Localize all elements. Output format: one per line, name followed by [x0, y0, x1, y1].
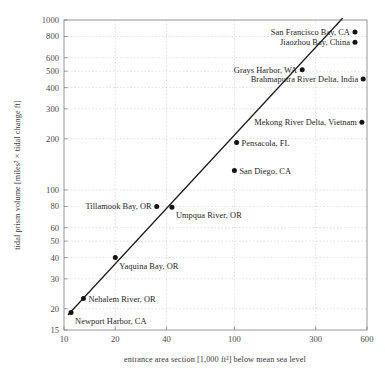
y-tick-label: 200	[46, 134, 59, 144]
y-tick-label: 100	[46, 185, 59, 195]
data-point-label: Brahmaputra River Delta, India	[251, 75, 359, 84]
y-tick-label: 600	[46, 53, 59, 63]
data-point-label: Jiaozhou Bay, China	[280, 38, 350, 47]
x-tick-label: 300	[309, 334, 322, 344]
y-tick-label: 1000	[42, 15, 59, 25]
y-tick-label: 300	[46, 104, 59, 114]
data-point	[69, 310, 74, 315]
data-point-label: Nehalem River, OR	[88, 295, 156, 304]
data-point-label: Pensacola, FL	[242, 139, 290, 148]
y-axis-title: tidal prism volume [miles² × tidal chang…	[13, 100, 22, 250]
y-tick-label: 60	[50, 223, 59, 233]
data-point	[352, 40, 357, 45]
data-point	[232, 168, 237, 173]
data-point-markers	[69, 29, 366, 315]
y-tick-label: 20	[50, 304, 59, 314]
y-tick-label: 400	[46, 83, 59, 93]
data-point-label: Newport Harbor, CA	[75, 317, 147, 326]
chart-container: 152030405060801002003004005006008001000 …	[0, 0, 385, 377]
data-point	[352, 29, 357, 34]
scatter-plot: 152030405060801002003004005006008001000 …	[0, 0, 385, 377]
y-tick-label: 40	[50, 253, 59, 263]
data-point	[359, 120, 364, 125]
plot-frame	[64, 20, 367, 330]
data-point	[81, 296, 86, 301]
y-tick-label: 500	[46, 66, 59, 76]
x-tick-label: 100	[228, 334, 241, 344]
data-point	[169, 205, 174, 210]
y-tick-label: 50	[50, 236, 59, 246]
trend-line	[68, 19, 342, 315]
data-point-label: Grays Harbor, WA	[234, 66, 297, 75]
data-point-label: San Francisco Bay, CA	[271, 28, 350, 37]
y-tick-label: 80	[50, 201, 59, 211]
data-point-label: Umpqua River, OR	[176, 211, 242, 220]
x-axis-ticks: 102040100300600	[60, 327, 374, 345]
data-point-label: Tillamook Bay, OR	[85, 202, 152, 211]
x-tick-label: 10	[60, 334, 69, 344]
y-tick-label: 800	[46, 31, 59, 41]
data-point-label: San Diego, CA	[239, 167, 291, 176]
x-tick-label: 600	[361, 334, 374, 344]
x-tick-label: 20	[111, 334, 120, 344]
data-point-label: Mekong River Delta, Vietnam	[254, 118, 357, 127]
data-point	[113, 255, 118, 260]
x-axis-title: entrance area section [1,000 ft²] below …	[124, 355, 306, 364]
data-point	[361, 76, 366, 81]
data-point-label: Yaquina Bay, OR	[119, 262, 179, 271]
y-tick-label: 15	[50, 325, 59, 335]
data-point	[154, 204, 159, 209]
x-tick-label: 40	[162, 334, 171, 344]
y-tick-label: 30	[50, 274, 59, 284]
data-point	[234, 140, 239, 145]
data-point	[300, 67, 305, 72]
